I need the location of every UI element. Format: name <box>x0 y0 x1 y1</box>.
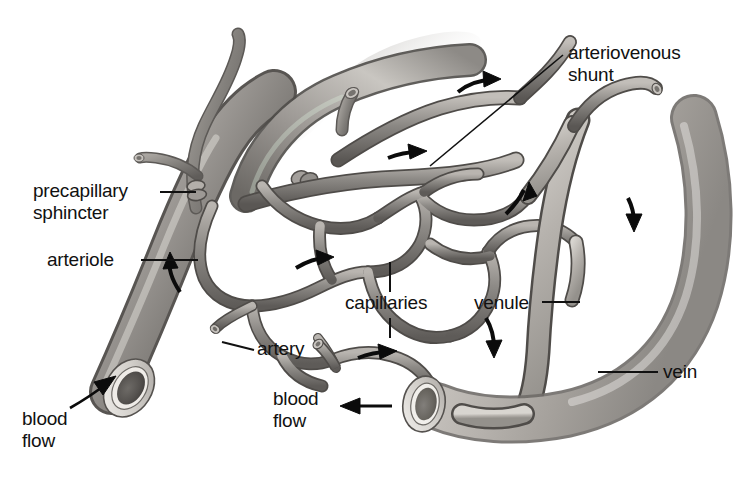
venule-vessel <box>524 120 578 414</box>
arrow-bloodflow-vein <box>340 398 392 414</box>
venule-vein-connector <box>462 414 524 419</box>
precapillary-sphincter-rings <box>186 179 207 201</box>
label-blood-flow-bottom: blood flow <box>273 388 319 432</box>
label-capillaries: capillaries <box>345 292 427 313</box>
leader-artery <box>222 342 254 350</box>
arrow-venule-down <box>486 318 502 358</box>
label-blood-flow-left: blood flow <box>22 408 68 452</box>
label-precapillary-sphincter: precapillary sphincter <box>33 180 128 224</box>
diagram-canvas: arteriovenous shunt precapillary sphinct… <box>0 0 740 484</box>
arrow-vein-down <box>626 198 642 232</box>
label-artery: artery <box>257 338 304 359</box>
label-vein: vein <box>663 361 697 382</box>
label-arteriole: arteriole <box>47 249 114 270</box>
arrow-shunt-mid <box>388 144 427 159</box>
label-venule: venule <box>474 292 529 313</box>
label-arteriovenous-shunt: arteriovenous shunt <box>568 42 681 86</box>
